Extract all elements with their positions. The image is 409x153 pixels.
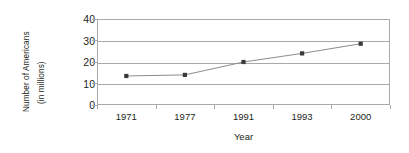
line-chart-figure: Number of Americans (in millions) 010203… xyxy=(0,0,409,153)
x-tick-label-1977: 1977 xyxy=(174,111,195,122)
gridline-10 xyxy=(98,84,389,85)
x-tick-label-1993: 1993 xyxy=(292,111,313,122)
x-tick-mark-4 xyxy=(331,105,332,109)
plot-area xyxy=(97,19,390,105)
x-tick-mark-3 xyxy=(273,105,274,109)
x-tick-mark-1 xyxy=(156,105,157,109)
x-tick-label-1991: 1991 xyxy=(233,111,254,122)
x-axis-title: Year xyxy=(0,131,409,142)
x-axis-title-text: Year xyxy=(234,131,253,142)
x-tick-mark-0 xyxy=(97,105,98,109)
gridline-20 xyxy=(98,63,389,64)
y-axis-title-line-1: Number of Americans xyxy=(22,31,31,112)
y-axis-title-line-2: (in millions) xyxy=(37,61,46,104)
x-tick-mark-2 xyxy=(214,105,215,109)
gridline-30 xyxy=(98,41,389,42)
x-tick-label-2000: 2000 xyxy=(350,111,371,122)
x-tick-mark-5 xyxy=(390,105,391,109)
x-tick-label-1971: 1971 xyxy=(116,111,137,122)
y-axis-title: Number of Americans (in millions) xyxy=(0,0,60,120)
